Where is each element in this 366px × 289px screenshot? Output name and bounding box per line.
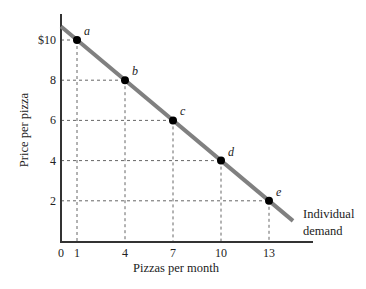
data-points: abcde [73, 24, 282, 205]
y-tick-label: $10 [38, 33, 56, 47]
point-a [73, 36, 81, 44]
demand-curve [61, 27, 293, 221]
curve-label-line1: Individual [303, 207, 355, 221]
demand-chart: 01471013 2468$10 abcde Pizzas per month … [0, 0, 366, 289]
point-b [121, 76, 129, 84]
y-axis-label: Price per pizza [17, 92, 31, 167]
point-d [217, 157, 225, 165]
point-c [169, 116, 177, 124]
x-tick-label: 13 [263, 246, 275, 260]
y-tick-label: 2 [50, 194, 56, 208]
y-tick-label: 6 [50, 113, 56, 127]
point-e [265, 197, 273, 205]
y-tick-labels: 2468$10 [38, 33, 56, 208]
x-axis-label: Pizzas per month [133, 261, 220, 275]
y-tick-label: 4 [50, 154, 56, 168]
x-tick-label: 0 [58, 246, 64, 260]
dashed-guide-lines [61, 40, 269, 242]
curve-label-line2: demand [303, 224, 343, 238]
point-label-d: d [228, 145, 235, 159]
point-label-c: c [180, 104, 186, 118]
point-label-b: b [132, 64, 138, 78]
chart-svg: 01471013 2468$10 abcde Pizzas per month … [0, 0, 366, 289]
x-tick-label: 10 [215, 246, 227, 260]
point-label-e: e [276, 185, 282, 199]
point-label-a: a [84, 24, 90, 38]
x-tick-label: 4 [122, 246, 128, 260]
x-tick-labels: 01471013 [58, 246, 275, 260]
x-tick-label: 7 [170, 246, 176, 260]
y-tick-label: 8 [50, 73, 56, 87]
x-tick-label: 1 [74, 246, 80, 260]
